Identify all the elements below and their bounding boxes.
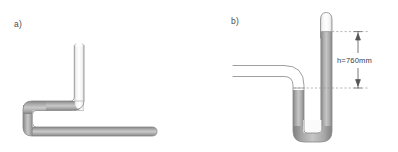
panel-a-outline	[23, 44, 157, 136]
mercury-left-arm-b	[293, 88, 304, 132]
arrowhead-up-b	[356, 34, 361, 40]
tube-outer-path-a	[23, 46, 157, 137]
panel-b-label: b)	[231, 16, 239, 26]
riser-top-left-a	[74, 44, 76, 46]
figure-container: a)	[0, 0, 398, 152]
panel-a-group: a)	[14, 19, 157, 136]
panel-a-mercury-body	[23, 101, 157, 136]
bend-interior-pocket-b	[303, 120, 322, 133]
physics-diagram-two-mercury-tubes: a)	[0, 0, 398, 152]
arrowhead-down-b	[356, 80, 361, 86]
height-dimension-label: h=760mm	[337, 56, 372, 65]
tube-inner-path-b	[233, 38, 322, 133]
mercury-upper-leg-a	[46, 101, 76, 111]
riser-top-right-a	[82, 44, 84, 46]
vacuum-space-b	[321, 13, 333, 39]
mercury-bottom-leg-a	[32, 127, 157, 136]
mercury-lower-left-bend-a	[23, 126, 33, 136]
mercury-right-arm-b	[321, 32, 333, 132]
mercury-meniscus-b	[321, 32, 333, 39]
panel-a-label: a)	[14, 19, 22, 29]
panel-b-group: b)	[231, 13, 372, 143]
mercury-upper-left-bend-a	[23, 101, 48, 114]
